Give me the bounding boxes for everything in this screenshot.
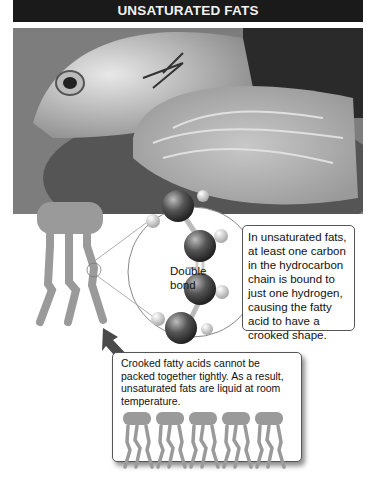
hydrogen-atom	[146, 214, 160, 228]
single-fatty-acid	[37, 202, 103, 322]
hydrogen-atom	[215, 285, 229, 299]
packed-molecule	[189, 412, 218, 467]
molecule-tail	[201, 426, 206, 467]
molecule-tail	[179, 426, 185, 467]
hydrogen-atom	[151, 312, 165, 326]
molecule-tail	[245, 426, 251, 467]
molecule-head	[156, 412, 184, 425]
fatty-acid-tail	[40, 235, 52, 322]
molecule-head	[123, 412, 151, 425]
molecule-tail	[212, 426, 218, 467]
molecule-tail	[168, 426, 173, 467]
fatty-acid-tail-crooked	[87, 235, 103, 320]
molecule-tail	[191, 426, 196, 467]
glycerol-head	[37, 202, 103, 234]
info-text: In unsaturated fats, at least one carbon…	[248, 231, 346, 341]
bottom-text: Crooked fatty acids cannot be packed tog…	[121, 357, 293, 407]
molecule-tail	[224, 426, 229, 467]
molecule-head	[255, 412, 283, 425]
molecule-tail	[267, 426, 272, 467]
packed-molecule	[255, 412, 284, 467]
packed-molecules	[121, 412, 295, 472]
hydrogen-atom	[197, 190, 209, 202]
fatty-acid-tail	[68, 235, 76, 322]
molecule-tail	[135, 426, 140, 467]
carbon-atom	[165, 312, 197, 344]
carbon-atom	[184, 230, 216, 262]
packed-molecule	[156, 412, 185, 467]
molecule-tail	[158, 426, 163, 467]
bottom-box: Crooked fatty acids cannot be packed tog…	[112, 352, 302, 462]
carbon-atom	[162, 190, 194, 222]
molecule-tail	[146, 426, 152, 467]
packed-molecule	[222, 412, 251, 467]
info-box: In unsaturated fats, at least one carbon…	[242, 225, 355, 331]
molecule-tail	[234, 426, 239, 467]
molecule-head	[222, 412, 250, 425]
molecule-tail	[257, 426, 262, 467]
molecule-tail	[125, 426, 130, 467]
hydrogen-atom	[214, 229, 228, 243]
double-bond-label: Double bond	[170, 264, 206, 292]
molecule-tail	[278, 426, 284, 467]
molecule-head	[189, 412, 217, 425]
packed-molecule	[123, 412, 152, 467]
hydrogen-atom	[201, 323, 213, 335]
